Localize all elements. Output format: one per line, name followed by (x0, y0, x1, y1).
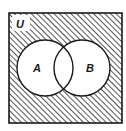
universe-label: U (16, 18, 25, 30)
shaded-complement-region (9, 13, 122, 123)
venn-diagram: U A B (0, 0, 126, 131)
set-b-label: B (86, 62, 94, 74)
set-a-label: A (32, 62, 41, 74)
